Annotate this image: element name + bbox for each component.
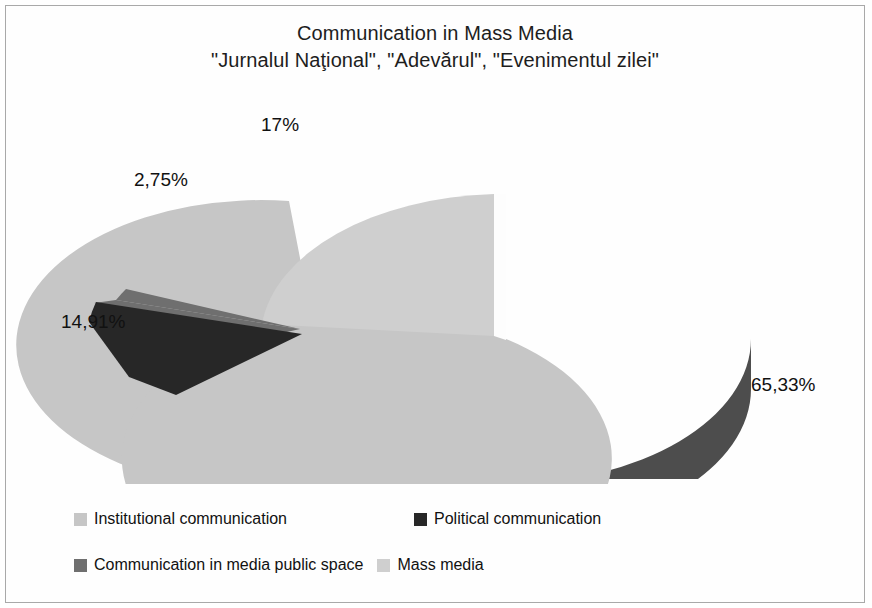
- legend-swatch-icon: [74, 513, 87, 526]
- legend-row: Institutional communication Political co…: [6, 496, 864, 542]
- chart-title-block: Communication in Mass Media "Jurnalul Na…: [6, 20, 864, 74]
- legend-item-institutional-communication[interactable]: Institutional communication: [74, 511, 414, 527]
- slice-gap: [494, 194, 506, 340]
- legend-label: Political communication: [434, 511, 601, 527]
- legend-item-political-communication[interactable]: Political communication: [414, 511, 601, 527]
- legend-label: Communication in media public space: [94, 557, 363, 573]
- chart-legend: Institutional communication Political co…: [6, 496, 864, 588]
- legend-row: Communication in media public space Mass…: [6, 542, 864, 588]
- data-label-institutional: 65,33%: [751, 374, 815, 396]
- pie-chart: Communication in Mass Media "Jurnalul Na…: [6, 6, 864, 602]
- legend-item-mass-media[interactable]: Mass media: [377, 557, 483, 573]
- data-label-media-public-space: 2,75%: [134, 169, 188, 191]
- data-label-mass-media: 17%: [261, 114, 299, 136]
- legend-swatch-icon: [377, 559, 390, 572]
- slice-top-mass-media: [262, 194, 494, 336]
- legend-swatch-icon: [414, 513, 427, 526]
- legend-item-communication-in-media-public-space[interactable]: Communication in media public space: [74, 557, 363, 573]
- data-label-political: 14,91%: [61, 311, 125, 333]
- legend-label: Mass media: [397, 557, 483, 573]
- chart-subtitle: "Jurnalul Naţional", "Adevărul", "Evenim…: [6, 47, 864, 74]
- pie-graphic: [16, 84, 856, 484]
- legend-swatch-icon: [74, 559, 87, 572]
- chart-frame: Communication in Mass Media "Jurnalul Na…: [5, 5, 865, 603]
- legend-label: Institutional communication: [94, 511, 287, 527]
- chart-title: Communication in Mass Media: [6, 20, 864, 47]
